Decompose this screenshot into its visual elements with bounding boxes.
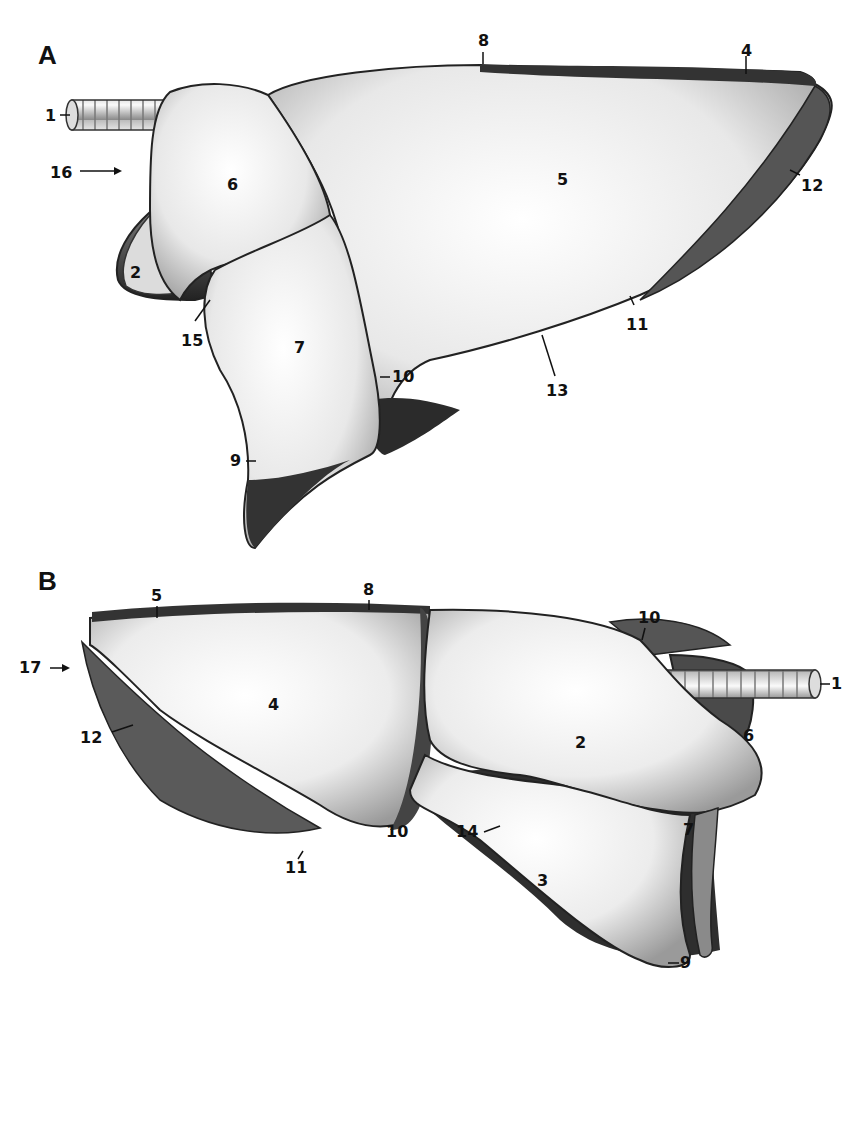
lung-medial-view-illustration: [0, 560, 861, 1145]
label-5: 5: [151, 588, 162, 604]
label-1: 1: [45, 108, 56, 124]
label-5: 5: [557, 172, 568, 188]
panel-a: A 1 16 6 2 15 7 9 10 8 4 5 12 11 13: [0, 0, 861, 560]
panel-letter-a: A: [38, 40, 57, 71]
label-14: 14: [456, 824, 478, 840]
label-4: 4: [268, 697, 279, 713]
label-13: 13: [546, 383, 568, 399]
label-16: 16: [50, 165, 72, 181]
label-12: 12: [80, 730, 102, 746]
label-1: 1: [831, 676, 842, 692]
label-10-top: 10: [638, 610, 660, 626]
label-8: 8: [363, 582, 374, 598]
label-12: 12: [801, 178, 823, 194]
label-6: 6: [743, 728, 754, 744]
label-7: 7: [683, 822, 694, 838]
label-9: 9: [230, 453, 241, 469]
label-2: 2: [575, 735, 586, 751]
label-10: 10: [386, 824, 408, 840]
label-6: 6: [227, 177, 238, 193]
label-10: 10: [392, 369, 414, 385]
label-2: 2: [130, 265, 141, 281]
label-4: 4: [741, 43, 752, 59]
label-15: 15: [181, 333, 203, 349]
label-8: 8: [478, 33, 489, 49]
panel-b: B 5 8 10 1 17 12 4 2 6 14 11 10 3 7 9: [0, 560, 861, 1145]
label-7: 7: [294, 340, 305, 356]
label-11: 11: [626, 317, 648, 333]
label-9: 9: [680, 955, 691, 971]
label-3: 3: [537, 873, 548, 889]
label-17: 17: [19, 660, 41, 676]
panel-letter-b: B: [38, 566, 57, 597]
label-11: 11: [285, 860, 307, 876]
